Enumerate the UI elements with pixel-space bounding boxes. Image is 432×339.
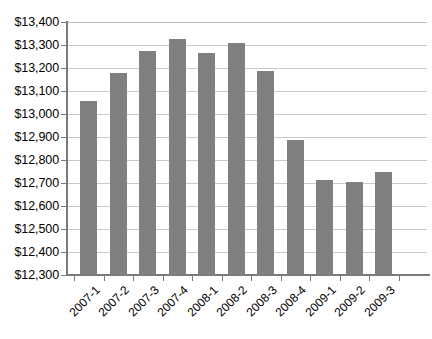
y-axis-tick-label: $12,400 — [15, 245, 60, 259]
y-axis-tick-label: $13,100 — [15, 84, 60, 98]
y-axis-tick-mark — [61, 114, 67, 115]
x-axis-tick-mark — [104, 276, 105, 281]
bar — [198, 53, 215, 275]
y-axis-tick-label: $13,400 — [15, 15, 60, 29]
y-axis-tick-mark — [61, 68, 67, 69]
y-axis-tick-mark — [61, 229, 67, 230]
y-axis-tick-label: $12,600 — [15, 199, 60, 213]
bar — [316, 180, 333, 275]
x-axis-tick-mark — [74, 276, 75, 281]
x-axis-tick-mark — [192, 276, 193, 281]
y-axis-tick-mark — [61, 252, 67, 253]
bar-chart: $12,300$12,400$12,500$12,600$12,700$12,8… — [0, 0, 432, 339]
y-axis-tick-label: $12,700 — [15, 176, 60, 190]
x-axis-tick-mark — [222, 276, 223, 281]
x-axis: 2007-12007-22007-32007-42008-12008-22008… — [0, 275, 432, 339]
x-axis-tick-mark — [399, 276, 400, 281]
x-axis-tick-mark — [133, 276, 134, 281]
bars-layer — [67, 22, 427, 275]
x-axis-tick-mark — [163, 276, 164, 281]
y-axis-tick-mark — [61, 137, 67, 138]
bar — [80, 101, 97, 275]
bar — [346, 182, 363, 275]
bar — [257, 71, 274, 275]
bar — [169, 39, 186, 275]
y-axis-tick-mark — [61, 91, 67, 92]
y-axis-tick-mark — [61, 206, 67, 207]
y-axis-tick-label: $12,900 — [15, 130, 60, 144]
y-axis-tick-mark — [61, 160, 67, 161]
y-axis-tick-mark — [61, 183, 67, 184]
x-axis-tick-mark — [251, 276, 252, 281]
bar — [228, 43, 245, 275]
bar — [287, 140, 304, 275]
y-axis-tick-label: $13,200 — [15, 61, 60, 75]
y-axis-tick-label: $13,300 — [15, 38, 60, 52]
bar — [375, 172, 392, 276]
y-axis-tick-mark — [61, 45, 67, 46]
y-axis: $12,300$12,400$12,500$12,600$12,700$12,8… — [0, 0, 66, 275]
y-axis-tick-mark — [61, 22, 67, 23]
x-axis-tick-mark — [310, 276, 311, 281]
x-axis-tick-mark — [281, 276, 282, 281]
y-axis-tick-label: $12,500 — [15, 222, 60, 236]
y-axis-tick-label: $13,000 — [15, 107, 60, 121]
x-axis-tick-mark — [369, 276, 370, 281]
y-axis-tick-label: $12,800 — [15, 153, 60, 167]
y-axis-tick-mark — [61, 275, 67, 276]
bar — [110, 73, 127, 275]
bar — [139, 51, 156, 275]
x-axis-tick-mark — [340, 276, 341, 281]
